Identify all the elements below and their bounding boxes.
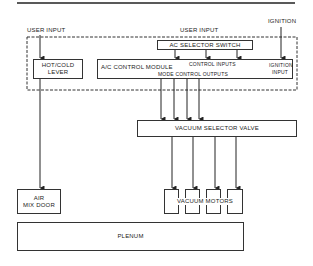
- user-input-label-left: USER INPUT: [27, 27, 65, 34]
- plenum: PLENUM: [17, 222, 244, 251]
- user-input-label-center: USER INPUT: [180, 27, 218, 34]
- vacuum-selector-valve-label: VACUUM SELECTOR VALVE: [175, 125, 259, 132]
- ignition-input-line1: IGNITION: [269, 62, 293, 69]
- air-mix-door: AIR MIX DOOR: [17, 189, 61, 214]
- ignition-label: IGNITION: [268, 18, 296, 25]
- ac-control-module: A/C CONTROL MODULE CONTROL INPUTS MODE C…: [97, 59, 293, 79]
- hot-cold-lever: HOT/COLD LEVER: [33, 59, 83, 79]
- vacuum-selector-valve: VACUUM SELECTOR VALVE: [137, 120, 297, 137]
- air-mix-door-line2: MIX DOOR: [23, 202, 55, 209]
- control-inputs-label: CONTROL INPUTS: [189, 61, 236, 68]
- ac-selector-switch: AC SELECTOR SWITCH: [157, 40, 253, 50]
- air-mix-door-line1: AIR: [34, 195, 45, 202]
- hot-cold-lever-line1: HOT/COLD: [42, 62, 75, 69]
- ac-control-module-label: A/C CONTROL MODULE: [101, 64, 173, 71]
- hot-cold-lever-line2: LEVER: [48, 69, 69, 76]
- vacuum-motors-label: VACUUM MOTORS: [176, 198, 234, 205]
- ignition-input-line2: INPUT: [272, 69, 288, 76]
- ac-selector-switch-label: AC SELECTOR SWITCH: [169, 42, 240, 49]
- mode-control-outputs-label: MODE CONTROL OUTPUTS: [158, 71, 228, 78]
- plenum-label: PLENUM: [117, 233, 143, 240]
